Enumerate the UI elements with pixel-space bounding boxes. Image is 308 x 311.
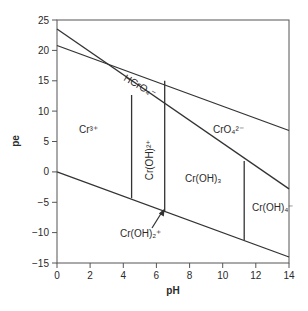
- y-tick-label: 0: [43, 166, 49, 177]
- y-tick-label: 5: [43, 136, 49, 147]
- y-tick-label: 20: [38, 45, 50, 56]
- y-tick-label: −10: [32, 227, 49, 238]
- x-tick-label: 8: [187, 270, 193, 281]
- x-tick-label: 2: [87, 270, 93, 281]
- x-axis-label: pH: [166, 285, 179, 296]
- boundary-lines: [57, 29, 289, 257]
- x-axis: [57, 263, 289, 268]
- x-tick-label: 12: [250, 270, 262, 281]
- pourbaix-diagram: 25 20 15 10 5 0 −5 −10 −15 0 2 4 6 8 10 …: [0, 0, 308, 311]
- arrow-icon: [152, 209, 165, 229]
- x-tick-label: 4: [121, 270, 127, 281]
- upper-water-line: [57, 46, 289, 131]
- region-label-croh3: Cr(OH)₃: [185, 173, 221, 184]
- region-label-croh2: Cr(OH)₂⁺: [120, 228, 161, 239]
- plot-frame: [57, 20, 289, 263]
- y-axis: [52, 20, 57, 263]
- y-tick-label: 15: [38, 75, 50, 86]
- x-tick-label: 10: [217, 270, 229, 281]
- y-axis-label: pe: [10, 135, 21, 147]
- y-tick-label: −15: [32, 258, 49, 269]
- y-tick-label: 25: [38, 15, 50, 26]
- x-tick-label: 0: [54, 270, 60, 281]
- region-label-cro4: CrO₄²⁻: [213, 124, 244, 135]
- region-label-croh4: Cr(OH)₄⁻: [252, 202, 293, 213]
- chromium-redox-line: [57, 29, 289, 189]
- region-label-croh2plus: Cr(OH)²⁺: [144, 140, 155, 181]
- x-tick-label: 6: [154, 270, 160, 281]
- region-label-cr3: Cr³⁺: [79, 124, 98, 135]
- y-tick-label: 10: [38, 106, 50, 117]
- lower-water-line: [57, 172, 289, 257]
- y-tick-label: −5: [38, 197, 50, 208]
- x-tick-label: 14: [283, 270, 295, 281]
